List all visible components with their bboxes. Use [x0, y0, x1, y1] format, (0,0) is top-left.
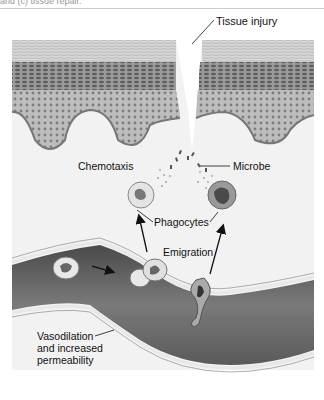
phagocyte-left — [128, 182, 154, 208]
label-microbe: Microbe — [233, 160, 270, 172]
label-emigration: Emigration — [163, 246, 213, 258]
label-tissue-injury: Tissue injury — [216, 15, 277, 27]
label-vasodilation-line3: permeability — [37, 354, 94, 366]
label-chemotaxis: Chemotaxis — [78, 160, 133, 172]
label-vasodilation-line2: and increased — [37, 342, 103, 354]
phagocyte-right — [208, 181, 236, 209]
label-phagocytes: Phagocytes — [154, 216, 209, 228]
leukocyte-in-vessel — [53, 257, 79, 279]
label-vasodilation-line1: Vasodilation — [37, 330, 93, 342]
